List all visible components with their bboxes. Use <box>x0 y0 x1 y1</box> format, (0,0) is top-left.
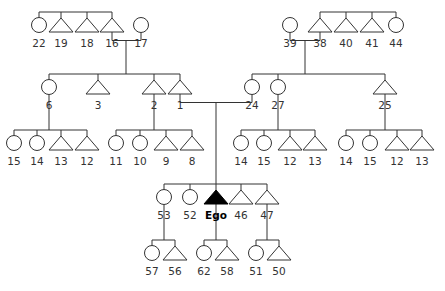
circle-female-icon <box>145 246 160 261</box>
individual-label: 12 <box>390 155 403 167</box>
circle-female-icon <box>42 80 57 95</box>
individual-label: 13 <box>308 155 321 167</box>
individual-label: 3 <box>95 99 102 111</box>
individual-label: 15 <box>363 155 376 167</box>
individual-label: 22 <box>32 37 45 49</box>
male-individual: 13 <box>410 136 434 167</box>
individual-label: 58 <box>220 265 233 277</box>
triangle-male-icon <box>215 246 239 260</box>
circle-female-icon <box>32 18 47 33</box>
female-individual: 14 <box>30 136 45 168</box>
circle-female-icon <box>7 136 22 151</box>
female-individual: 57 <box>145 246 160 278</box>
individual-label: 15 <box>257 155 270 167</box>
kinship-diagram: 2219181617393840414463212427251514131211… <box>0 0 445 291</box>
male-individual: 41 <box>360 18 384 49</box>
male-individual: 9 <box>154 136 178 167</box>
female-individual: 44 <box>389 18 404 50</box>
individual-label: 52 <box>183 209 196 221</box>
individual-label: 19 <box>54 37 67 49</box>
triangle-male-icon <box>154 136 178 150</box>
male-individual: 46 <box>229 190 253 221</box>
circle-female-icon <box>271 80 286 95</box>
female-individual: 15 <box>7 136 22 168</box>
female-individual: 14 <box>339 136 354 168</box>
triangle-male-icon <box>278 136 302 150</box>
individual-label: 44 <box>389 37 403 49</box>
individual-label: 6 <box>46 99 53 111</box>
male-individual: 13 <box>49 136 73 167</box>
individual-label: 14 <box>30 155 44 167</box>
individual-label: 12 <box>80 155 93 167</box>
individual-label: 14 <box>234 155 248 167</box>
circle-female-icon <box>197 246 212 261</box>
individual-label: 9 <box>163 155 170 167</box>
individual-label: 27 <box>271 99 284 111</box>
individual-label: 41 <box>365 37 378 49</box>
individual-label: 1 <box>177 99 184 111</box>
triangle-ego-filled-icon <box>204 190 228 204</box>
triangle-male-icon <box>75 136 99 150</box>
individual-label: 39 <box>283 37 296 49</box>
male-individual: 40 <box>334 18 358 49</box>
male-individual: 3 <box>86 80 110 111</box>
individual-label: 15 <box>7 155 20 167</box>
circle-female-icon <box>30 136 45 151</box>
individual-label: 57 <box>145 265 158 277</box>
male-individual: 12 <box>75 136 99 167</box>
male-individual: 50 <box>267 246 291 277</box>
male-individual: 56 <box>163 246 187 277</box>
circle-female-icon <box>389 18 404 33</box>
female-individual: 11 <box>109 136 124 168</box>
triangle-male-icon <box>86 80 110 94</box>
female-individual: 52 <box>183 190 198 222</box>
individual-label: 17 <box>134 37 147 49</box>
triangle-male-icon <box>49 18 73 32</box>
individual-label: 14 <box>339 155 353 167</box>
circle-female-icon <box>257 136 272 151</box>
triangle-male-icon <box>334 18 358 32</box>
triangle-male-icon <box>308 18 332 32</box>
triangle-male-icon <box>373 80 397 94</box>
triangle-male-icon <box>49 136 73 150</box>
triangle-male-icon <box>168 80 192 94</box>
individual-label: 53 <box>157 209 170 221</box>
triangle-male-icon <box>100 18 124 32</box>
kinship-individuals: 2219181617393840414463212427251514131211… <box>7 18 435 278</box>
individual-label: 51 <box>249 265 262 277</box>
individual-label: 13 <box>415 155 428 167</box>
circle-female-icon <box>234 136 249 151</box>
individual-label: 16 <box>105 37 119 49</box>
male-individual: 18 <box>75 18 99 49</box>
individual-label: 2 <box>151 99 158 111</box>
individual-label: 46 <box>234 209 248 221</box>
circle-female-icon <box>183 190 198 205</box>
triangle-male-icon <box>360 18 384 32</box>
female-individual: 15 <box>363 136 378 168</box>
individual-label: 24 <box>245 99 259 111</box>
male-individual: 8 <box>180 136 204 167</box>
individual-label: 13 <box>54 155 67 167</box>
circle-female-icon <box>245 80 260 95</box>
male-individual: 13 <box>303 136 327 167</box>
triangle-male-icon <box>75 18 99 32</box>
triangle-male-icon <box>142 80 166 94</box>
individual-label: 62 <box>197 265 210 277</box>
triangle-male-icon <box>410 136 434 150</box>
individual-label: 40 <box>339 37 352 49</box>
male-individual: 19 <box>49 18 73 49</box>
individual-label: 38 <box>313 37 326 49</box>
triangle-male-icon <box>255 190 279 204</box>
circle-female-icon <box>134 18 149 33</box>
triangle-male-icon <box>229 190 253 204</box>
triangle-male-icon <box>163 246 187 260</box>
triangle-male-icon <box>267 246 291 260</box>
individual-label: 8 <box>189 155 196 167</box>
circle-female-icon <box>249 246 264 261</box>
individual-label: 18 <box>80 37 93 49</box>
female-individual: 14 <box>234 136 249 168</box>
female-individual: 15 <box>257 136 272 168</box>
circle-female-icon <box>133 136 148 151</box>
circle-female-icon <box>339 136 354 151</box>
female-individual: 10 <box>133 136 148 168</box>
